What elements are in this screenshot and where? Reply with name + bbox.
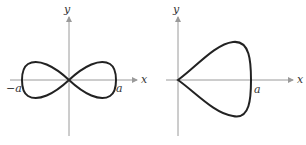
lemniscate-plot: x y −a a bbox=[6, 3, 148, 136]
x-axis-label: x bbox=[297, 73, 304, 86]
a-label: a bbox=[254, 83, 261, 96]
y-axis-label: y bbox=[63, 3, 71, 16]
teardrop-plot: x y a bbox=[166, 3, 304, 136]
teardrop-curve bbox=[178, 42, 251, 117]
figure-canvas: x y −a a x y a bbox=[0, 0, 306, 145]
neg-a-label: −a bbox=[6, 82, 22, 95]
y-axis-label: y bbox=[172, 3, 180, 16]
a-label: a bbox=[116, 82, 123, 95]
x-axis-label: x bbox=[141, 73, 148, 86]
